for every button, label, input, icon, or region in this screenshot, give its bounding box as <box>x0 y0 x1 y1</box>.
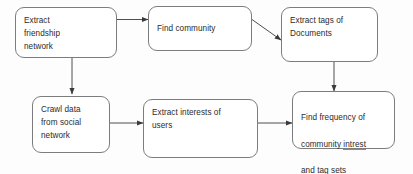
node-find-community[interactable]: Find community <box>148 6 252 51</box>
node-label: Extract tags of Documents <box>290 14 343 40</box>
node-label: Find community <box>157 22 215 35</box>
flowchart-canvas: Extract friendship network Find communit… <box>0 0 413 174</box>
node-extract-interests-of-users[interactable]: Extract interests of users <box>143 99 258 158</box>
node-crawl-data-from-social-network[interactable]: Crawl data from social network <box>32 96 110 153</box>
node-label-line-1: Find frequency of <box>301 113 365 122</box>
node-label: Crawl data from social network <box>41 103 81 143</box>
misspelled-word: intrest <box>343 140 366 150</box>
node-label-line-3: and tag sets <box>301 166 346 174</box>
node-label: Find frequency of community intrest and … <box>301 98 366 174</box>
node-label: Extract interests of users <box>152 106 221 132</box>
node-find-frequency[interactable]: Find frequency of community intrest and … <box>292 91 395 149</box>
node-label-line-2-prefix: community <box>301 140 343 149</box>
node-extract-friendship-network[interactable]: Extract friendship network <box>15 7 117 58</box>
node-label: Extract friendship network <box>24 14 60 54</box>
edge-community-to-tags <box>252 20 281 41</box>
node-extract-tags-of-documents[interactable]: Extract tags of Documents <box>281 7 378 62</box>
